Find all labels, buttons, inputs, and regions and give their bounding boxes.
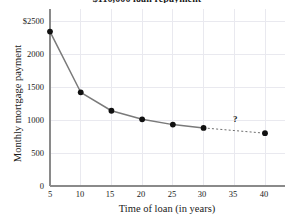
x-tick-label: 15 (98, 190, 122, 198)
series-line (50, 32, 204, 128)
y-tick-label: 0 (4, 182, 44, 190)
data-point (139, 116, 145, 122)
chart-title: $110,000 loan repayment (0, 0, 294, 3)
axis-lines (50, 9, 285, 186)
data-point (47, 29, 53, 35)
x-axis-title: Time of loan (in years) (40, 203, 294, 214)
plot-area (0, 0, 294, 220)
x-tick-label: 35 (221, 190, 245, 198)
grid-lines (50, 9, 285, 186)
x-tick-label: 20 (129, 190, 153, 198)
data-point (201, 125, 207, 131)
data-point (262, 130, 268, 136)
x-tick-label: 10 (68, 190, 92, 198)
y-tick-label: 1500 (4, 83, 44, 91)
data-point (78, 89, 84, 95)
data-point (170, 122, 176, 128)
x-tick-label: 40 (252, 190, 276, 198)
y-tick-label: 1000 (4, 116, 44, 124)
chart-container: $110,000 loan repayment Monthly mortgage… (0, 0, 294, 220)
data-point (109, 108, 115, 114)
x-tick-label: 30 (190, 190, 214, 198)
y-tick-label: $2500 (4, 17, 44, 25)
y-axis-title: Monthly mortgage payment (12, 24, 23, 184)
y-tick-label: 2000 (4, 50, 44, 58)
x-tick-label: 5 (38, 190, 62, 198)
y-tick-label: 500 (4, 149, 44, 157)
x-tick-label: 25 (160, 190, 184, 198)
unknown-value-marker: ? (233, 115, 238, 124)
